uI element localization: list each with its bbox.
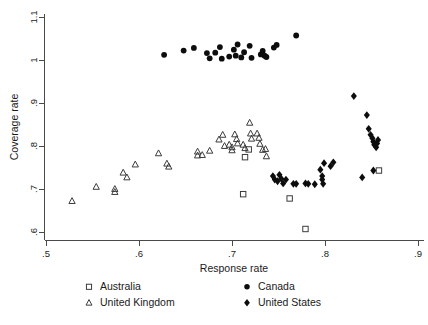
y-tick-label: .8 xyxy=(28,142,39,150)
data-point xyxy=(120,169,126,175)
data-point xyxy=(242,154,247,159)
legend-label: Canada xyxy=(258,280,295,292)
data-point xyxy=(219,56,225,62)
legend-label: Australia xyxy=(100,280,141,292)
data-point xyxy=(312,180,318,188)
scatter-plot-figure: .6.7.8.911.1 .5.6.7.8.9 Coverage rate Re… xyxy=(0,0,428,325)
open-triangle-legend-icon xyxy=(86,300,92,306)
data-point xyxy=(287,196,292,201)
series-australia xyxy=(240,147,381,232)
data-point xyxy=(376,168,381,173)
data-point xyxy=(233,53,239,59)
series-united-states xyxy=(270,92,381,188)
data-point xyxy=(240,191,245,196)
open-square-legend-icon xyxy=(86,284,91,289)
data-point xyxy=(370,167,376,175)
data-point xyxy=(303,226,308,231)
y-axis-ticks: .6.7.8.911.1 xyxy=(28,10,44,236)
data-point xyxy=(207,147,213,153)
data-point xyxy=(256,134,262,140)
data-point xyxy=(69,198,75,204)
data-point xyxy=(161,52,167,58)
data-point xyxy=(257,140,263,146)
data-point xyxy=(317,166,323,174)
data-point xyxy=(247,130,253,136)
y-tick-label: .9 xyxy=(28,99,39,107)
x-axis-title: Response rate xyxy=(200,262,268,274)
y-tick-label: .7 xyxy=(28,185,39,193)
data-point xyxy=(191,45,197,51)
data-point xyxy=(235,42,241,48)
x-axis-ticks: .5.6.7.8.9 xyxy=(42,241,422,260)
y-tick-label: .6 xyxy=(28,228,39,236)
legend-item-united-states[interactable]: United States xyxy=(244,296,321,308)
data-points-layer xyxy=(69,33,382,232)
data-point xyxy=(351,92,357,100)
x-tick-label: .5 xyxy=(42,248,50,259)
data-point xyxy=(263,153,269,159)
series-canada xyxy=(161,33,299,62)
data-point xyxy=(226,54,232,60)
data-point xyxy=(132,161,138,167)
data-point xyxy=(293,33,299,39)
legend-label: United Kingdom xyxy=(100,296,175,308)
data-point xyxy=(212,50,218,56)
data-point xyxy=(220,131,226,137)
data-point xyxy=(207,55,213,61)
legend-item-canada[interactable]: Canada xyxy=(244,280,295,292)
data-point xyxy=(155,150,161,156)
data-point xyxy=(181,48,187,54)
y-tick-label: 1.1 xyxy=(28,10,39,23)
chart-canvas: .6.7.8.911.1 .5.6.7.8.9 Coverage rate Re… xyxy=(0,0,428,325)
y-axis-title: Coverage rate xyxy=(8,94,20,161)
data-point xyxy=(242,145,248,151)
data-point xyxy=(231,47,237,53)
filled-circle-legend-icon xyxy=(244,284,250,290)
chart-legend: AustraliaCanadaUnited KingdomUnited Stat… xyxy=(86,280,321,308)
x-tick-label: .9 xyxy=(414,248,422,259)
data-point xyxy=(264,54,270,60)
data-point xyxy=(93,183,99,189)
data-point xyxy=(364,111,370,119)
legend-item-australia[interactable]: Australia xyxy=(86,280,141,292)
x-tick-label: .6 xyxy=(135,248,143,259)
filled-diamond-legend-icon xyxy=(244,299,250,306)
data-point xyxy=(204,50,210,56)
data-point xyxy=(274,42,280,48)
legend-label: United States xyxy=(258,296,321,308)
y-tick-label: 1 xyxy=(28,57,39,62)
data-point xyxy=(247,119,253,125)
legend-item-united-kingdom[interactable]: United Kingdom xyxy=(86,296,175,308)
data-point xyxy=(247,43,253,49)
data-point xyxy=(249,55,255,61)
x-tick-label: .7 xyxy=(228,248,236,259)
data-point xyxy=(241,49,247,55)
data-point xyxy=(217,44,223,50)
data-point xyxy=(238,55,244,61)
x-tick-label: .8 xyxy=(321,248,329,259)
data-point xyxy=(359,173,365,181)
data-point xyxy=(321,159,327,167)
series-united-kingdom xyxy=(69,119,270,203)
